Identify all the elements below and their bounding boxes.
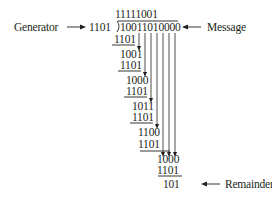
step-3-subtrahend: 1101 <box>126 85 148 97</box>
remainder-label: Remainder <box>225 178 272 190</box>
step-4-subtrahend: 1101 <box>132 111 154 123</box>
dividend: 10011010000 <box>120 21 181 33</box>
step-6-subtrahend: 1101 <box>157 164 179 176</box>
quotient: 11111001 <box>115 8 158 20</box>
message-label: Message <box>207 21 246 33</box>
step-5-subtrahend: 1101 <box>138 138 160 150</box>
divisor: 1101 <box>89 21 111 33</box>
step-5-partial: 1100 <box>138 126 160 138</box>
generator-label: Generator <box>14 21 58 33</box>
step-1-subtrahend: 1101 <box>114 33 136 45</box>
remainder-value: 101 <box>163 178 180 190</box>
step-2-subtrahend: 1101 <box>120 59 142 71</box>
